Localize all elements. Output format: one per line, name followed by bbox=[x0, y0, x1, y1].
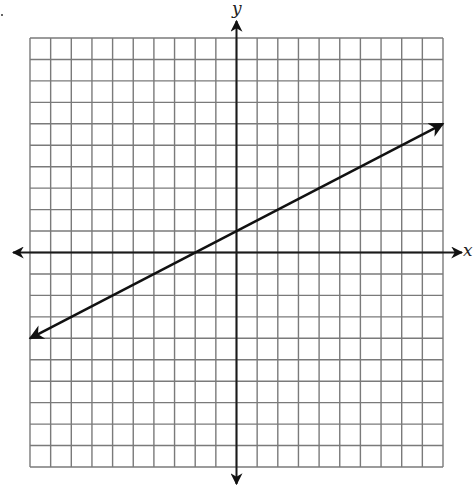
axes bbox=[13, 21, 462, 484]
y-axis-label: y bbox=[232, 0, 242, 18]
stray-mark bbox=[1, 14, 3, 16]
x-axis-label: x bbox=[463, 240, 473, 260]
